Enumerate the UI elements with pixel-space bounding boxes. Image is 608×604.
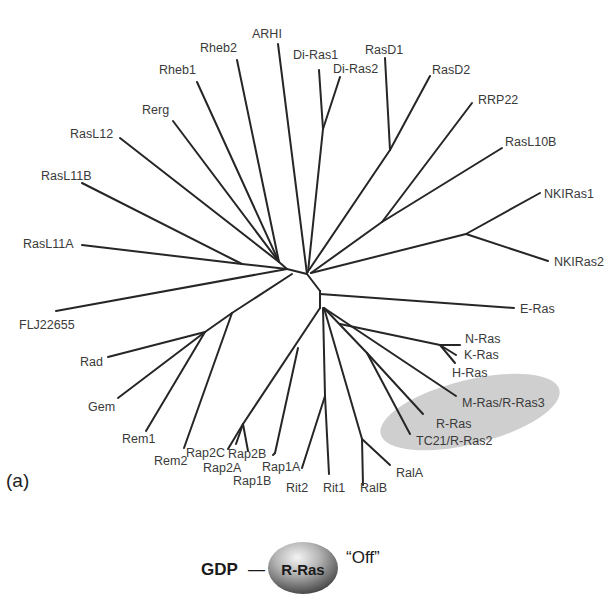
leaf-rap2a: Rap2A [203, 461, 242, 475]
leaf-ralb: RalB [360, 481, 387, 495]
branch-mras [324, 308, 456, 396]
phylogenetic-tree: ARHI Rheb2 Rheb1 Rerg RasL12 RasL11B Ras… [0, 0, 608, 604]
branch-gem [118, 332, 205, 398]
branch-rasl11b [82, 183, 242, 264]
leaf-rheb1: Rheb1 [159, 63, 196, 77]
branch-nkiras2 [466, 234, 548, 261]
leaf-rap1a: Rap1A [262, 460, 301, 474]
branch-ralb [362, 439, 363, 485]
panel-label: (a) [6, 470, 29, 491]
connector-dash: — [248, 560, 265, 579]
branch-rit1 [325, 396, 329, 474]
leaf-rit2: Rit2 [286, 481, 308, 495]
leaf-rasl11b: RasL11B [41, 169, 92, 183]
leaf-rap2b: Rap2B [228, 447, 266, 461]
branch-arhi [278, 44, 307, 274]
branch-rheb1 [197, 82, 279, 262]
leaf-rasl12: RasL12 [70, 127, 113, 141]
leaf-mras: M-Ras/R-Ras3 [462, 396, 545, 410]
leaf-rala: RalA [396, 466, 424, 480]
branch-diras2 [323, 77, 340, 129]
protein-label: R-Ras [281, 561, 324, 578]
leaf-rasd2: RasD2 [432, 63, 470, 77]
state-label: “Off” [346, 548, 380, 567]
branch-rap1b [273, 453, 275, 455]
leaf-rem2: Rem2 [154, 454, 187, 468]
branch-rasd2 [390, 76, 430, 150]
branch-rap1a [275, 348, 298, 453]
leaf-rem1: Rem1 [122, 432, 155, 446]
branch-rasl11a [82, 245, 242, 264]
branch-rheb2 [237, 60, 279, 262]
leaf-nras: N-Ras [465, 332, 500, 346]
branch-rem2 [184, 313, 232, 448]
leaf-hras: H-Ras [452, 366, 487, 380]
leaf-rasl10b: RasL10B [505, 135, 556, 149]
branch-diras1 [319, 70, 323, 129]
branch-rrp22 [382, 103, 472, 222]
leaf-rit1: Rit1 [323, 481, 345, 495]
branch-rasl10b [382, 148, 502, 222]
leaf-rasd1: RasD1 [365, 43, 403, 57]
state-diagram: GDP — R-Ras “Off” [201, 542, 380, 594]
leaf-gem: Gem [88, 400, 115, 414]
leaf-rap2c: Rap2C [186, 446, 225, 460]
leaf-rasl11a: RasL11A [23, 237, 74, 251]
leaf-diras2: Di-Ras2 [333, 62, 378, 76]
branch-nkiras1 [466, 193, 540, 234]
gdp-label: GDP [201, 560, 238, 579]
branch-rit2 [302, 396, 325, 468]
branch-eras [320, 294, 514, 308]
leaf-flj22655: FLJ22655 [19, 318, 75, 332]
leaf-rras: R-Ras [436, 417, 471, 431]
leaf-arhi: ARHI [252, 27, 282, 41]
leaf-kras: K-Ras [464, 348, 499, 362]
branch-rasd1 [385, 58, 390, 150]
branch-flj22655 [56, 269, 287, 311]
branch-rala [362, 439, 390, 465]
leaf-rrp22: RRP22 [478, 93, 518, 107]
leaf-rad: Rad [80, 355, 103, 369]
branch-rad [108, 332, 205, 357]
leaf-rap1b: Rap1B [233, 474, 271, 488]
leaf-nkiras1: NKIRas1 [544, 187, 594, 201]
leaf-eras: E-Ras [520, 302, 555, 316]
leaf-nkiras2: NKIRas2 [554, 255, 604, 269]
leaf-rerg: Rerg [142, 103, 169, 117]
leaf-rheb2: Rheb2 [200, 41, 237, 55]
leaf-tc21: TC21/R-Ras2 [416, 434, 492, 448]
leaf-diras1: Di-Ras1 [293, 48, 338, 62]
